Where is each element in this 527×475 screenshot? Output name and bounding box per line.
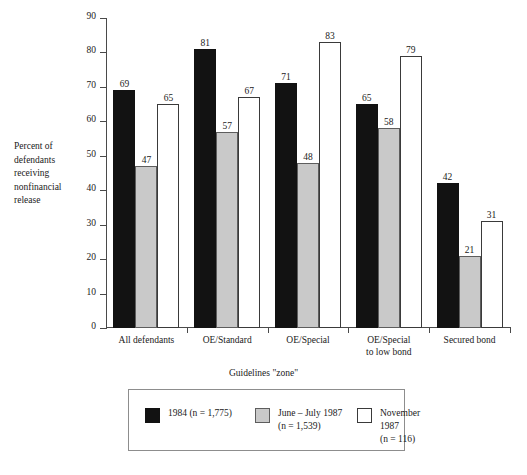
x-axis-group-label-line: OE/Special bbox=[268, 334, 349, 346]
y-axis-tick-label: 30 bbox=[87, 218, 97, 228]
bar-value-label: 67 bbox=[244, 86, 254, 96]
x-axis-group-label-line: OE/Special bbox=[348, 334, 429, 346]
y-axis-tick-label: 80 bbox=[87, 45, 97, 55]
x-axis-group-label: OE/Specialto low bond bbox=[348, 334, 429, 358]
y-axis-tick: 40 bbox=[100, 190, 107, 191]
bar-value-label: 83 bbox=[325, 31, 335, 41]
bar-value-label: 48 bbox=[303, 152, 313, 162]
bar-value-label: 65 bbox=[362, 93, 372, 103]
y-axis-tick-label: 70 bbox=[87, 80, 97, 90]
bar-value-label: 57 bbox=[222, 121, 232, 131]
legend-label: November 1987 (n = 116) bbox=[380, 407, 420, 446]
y-axis-tick: 10 bbox=[100, 294, 107, 295]
y-axis-tick-label: 50 bbox=[87, 149, 97, 159]
x-axis-group-label-line: OE/Standard bbox=[187, 334, 268, 346]
legend-item: 1984 (n = 1,775) bbox=[145, 407, 232, 423]
x-axis-group-label: OE/Special bbox=[268, 334, 349, 346]
y-axis-tick-label: 60 bbox=[87, 114, 97, 124]
bar-value-label: 79 bbox=[406, 45, 416, 55]
legend-swatch bbox=[145, 408, 160, 423]
x-axis-group-label: Secured bond bbox=[429, 334, 510, 346]
bar-value-label: 65 bbox=[164, 93, 174, 103]
y-axis-tick: 90 bbox=[100, 18, 107, 19]
y-axis-tick: 60 bbox=[100, 121, 107, 122]
legend-item: November 1987 (n = 116) bbox=[357, 407, 420, 446]
y-axis-tick-label: 10 bbox=[87, 287, 97, 297]
y-axis-label-line: release bbox=[14, 194, 100, 208]
legend-item: June – July 1987 (n = 1,539) bbox=[255, 407, 342, 433]
bar-chart: Percent of defendants receiving nonfinan… bbox=[0, 0, 527, 475]
y-axis-tick-label: 90 bbox=[87, 11, 97, 21]
x-axis-tick bbox=[348, 327, 349, 333]
bar: 69 bbox=[113, 90, 135, 328]
bar-value-label: 58 bbox=[384, 117, 394, 127]
x-axis-tick bbox=[187, 327, 188, 333]
bar: 58 bbox=[378, 128, 400, 328]
legend: 1984 (n = 1,775)June – July 1987 (n = 1,… bbox=[128, 389, 405, 451]
x-axis-group-label-line: All defendants bbox=[106, 334, 187, 346]
bar-value-label: 71 bbox=[281, 72, 291, 82]
bar-value-label: 47 bbox=[142, 155, 152, 165]
bar: 47 bbox=[135, 166, 157, 328]
y-axis-tick: 70 bbox=[100, 87, 107, 88]
x-axis-title: Guidelines "zone" bbox=[0, 368, 527, 378]
y-axis-tick-label: 40 bbox=[87, 183, 97, 193]
x-axis-group-label: All defendants bbox=[106, 334, 187, 346]
legend-label: June – July 1987 (n = 1,539) bbox=[278, 407, 342, 433]
legend-swatch bbox=[255, 408, 270, 423]
y-axis-tick-label: 20 bbox=[87, 252, 97, 262]
bar: 65 bbox=[157, 104, 179, 328]
bar: 71 bbox=[275, 83, 297, 328]
x-axis-group-label-line: to low bond bbox=[348, 346, 429, 358]
bar: 67 bbox=[238, 97, 260, 328]
y-axis-tick: 50 bbox=[100, 156, 107, 157]
bar-value-label: 21 bbox=[465, 245, 475, 255]
bar: 57 bbox=[216, 132, 238, 328]
y-axis-tick-label: 0 bbox=[91, 321, 96, 331]
bar: 31 bbox=[481, 221, 503, 328]
bar-value-label: 81 bbox=[200, 38, 210, 48]
bar: 21 bbox=[459, 256, 481, 328]
y-axis-label-line: receiving bbox=[14, 167, 100, 181]
y-axis-line bbox=[106, 18, 107, 328]
x-axis-tick bbox=[429, 327, 430, 333]
bar-value-label: 69 bbox=[120, 79, 130, 89]
x-axis-group-label: OE/Standard bbox=[187, 334, 268, 346]
bar: 65 bbox=[356, 104, 378, 328]
bar: 83 bbox=[319, 42, 341, 328]
plot-area: 9080706050403020100 69476581576771488365… bbox=[106, 18, 510, 328]
legend-label: 1984 (n = 1,775) bbox=[168, 407, 232, 420]
bar: 81 bbox=[194, 49, 216, 328]
bar: 48 bbox=[297, 163, 319, 328]
x-axis-group-label-line: Secured bond bbox=[429, 334, 510, 346]
bar: 42 bbox=[437, 183, 459, 328]
bar-value-label: 31 bbox=[487, 210, 497, 220]
y-axis-tick: 30 bbox=[100, 225, 107, 226]
x-axis-tick bbox=[268, 327, 269, 333]
bar-value-label: 42 bbox=[443, 172, 453, 182]
y-axis-tick: 0 bbox=[100, 328, 107, 329]
x-axis-tick bbox=[510, 327, 511, 333]
y-axis-tick: 80 bbox=[100, 52, 107, 53]
y-axis-tick: 20 bbox=[100, 259, 107, 260]
legend-swatch bbox=[357, 408, 372, 423]
bar: 79 bbox=[400, 56, 422, 328]
